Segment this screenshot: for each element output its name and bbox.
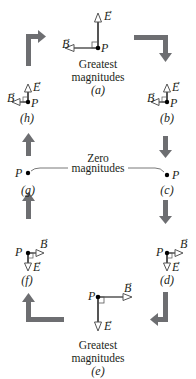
state-d-b-label: →B	[180, 238, 187, 250]
state-b-point-label: P	[170, 97, 177, 110]
state-b-label: (b)	[160, 112, 174, 125]
state-e-b-label: →B	[124, 282, 131, 294]
state-g-point	[26, 171, 30, 175]
zero-caption-line2: magnitudes	[71, 162, 124, 175]
state-h-label: (h)	[20, 112, 34, 125]
state-e-label: (e)	[91, 365, 104, 378]
state-a-point-label: P	[101, 42, 108, 55]
state-a-e-label: →E	[104, 10, 111, 22]
cycle-arrow-e-to-f	[22, 293, 64, 322]
state-c-point	[165, 173, 169, 177]
state-e-e-label: →E	[104, 320, 111, 332]
state-c-point-label: P	[172, 169, 179, 182]
state-d-e-label: →E	[172, 261, 179, 273]
state-g-label: (g)	[21, 184, 35, 197]
state-f-point-label: P	[15, 246, 22, 259]
cycle-arrow-c-to-d	[159, 200, 172, 224]
state-b-b-label: →B	[147, 92, 154, 104]
state-b-e-label: →E	[172, 81, 179, 93]
state-a-b-label: →B	[62, 38, 69, 50]
cycle-arrow-g-to-h	[22, 133, 35, 156]
state-e-point-label: P	[88, 290, 95, 303]
state-h-e-label: →E	[33, 81, 40, 93]
cycle-arrow-b-to-c	[159, 136, 172, 158]
state-h-point-label: P	[31, 97, 38, 110]
state-d-label: (d)	[160, 274, 174, 287]
state-f-e-label: →E	[33, 261, 40, 273]
state-e-fields	[95, 294, 133, 332]
state-c-label: (c)	[160, 184, 173, 197]
state-f-b-label: →B	[40, 238, 47, 250]
state-f-label: (f)	[21, 274, 32, 287]
cycle-arrow-a-to-b	[134, 35, 172, 62]
state-d-point-label: P	[156, 246, 163, 259]
state-a-fields	[65, 13, 102, 52]
cycle-arrow-d-to-e	[150, 292, 168, 326]
state-h-b-label: →B	[7, 92, 14, 104]
state-a-caption-line1: Greatest	[79, 58, 117, 71]
state-a-label: (a)	[91, 84, 105, 97]
state-e-caption-line1: Greatest	[79, 339, 117, 352]
state-g-point-label: P	[15, 167, 22, 180]
cycle-arrow-h-to-a	[26, 30, 46, 66]
